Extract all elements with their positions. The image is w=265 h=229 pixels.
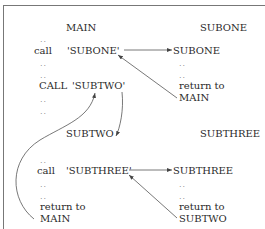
arrow-call-subtwo (116, 92, 123, 136)
arrow-return-subtwo-from-subthree (129, 175, 177, 218)
flow-arrows (0, 0, 265, 229)
arrow-return-main-from-subtwo (16, 93, 95, 219)
arrow-return-main-from-subone (118, 55, 177, 98)
